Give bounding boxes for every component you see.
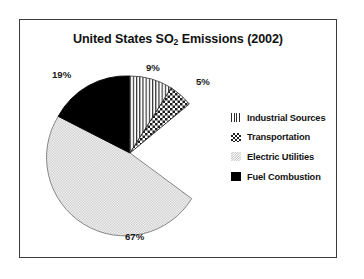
legend-item-transportation: Transportation [231, 128, 335, 148]
solid-black-swatch-icon [231, 172, 241, 181]
legend-label-electric-utilities: Electric Utilities [247, 152, 314, 162]
chart-title-suffix: Emissions (2002) [178, 32, 283, 46]
chart-title-prefix: United States SO [73, 32, 174, 46]
legend-label-industrial-sources: Industrial Sources [247, 113, 325, 123]
pie-label-transportation: 5% [196, 76, 210, 87]
legend-label-transportation: Transportation [247, 132, 310, 142]
legend-item-electric-utilities: Electric Utilities [231, 147, 335, 167]
pie-chart [40, 63, 220, 243]
pie-label-electric-utilities: 67% [125, 231, 144, 242]
checkerboard-swatch-icon [231, 133, 241, 142]
vertical-stripe-swatch-icon [231, 113, 241, 122]
legend-item-fuel-combustion: Fuel Combustion [231, 167, 335, 187]
chart-figure: United States SO2 Emissions (2002) [0, 0, 364, 279]
chart-legend: Industrial Sources Transportation Electr… [231, 108, 335, 186]
chart-title: United States SO2 Emissions (2002) [19, 32, 337, 47]
stipple-swatch-icon [231, 152, 241, 161]
pie-label-industrial-sources: 9% [146, 62, 160, 73]
legend-label-fuel-combustion: Fuel Combustion [247, 172, 321, 182]
pie-label-fuel-combustion: 19% [52, 69, 71, 80]
legend-item-industrial-sources: Industrial Sources [231, 108, 335, 128]
